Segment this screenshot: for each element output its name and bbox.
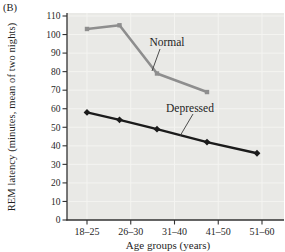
x-tick-label: 41–50 <box>206 226 231 237</box>
y-tick-label: 30 <box>51 160 61 170</box>
y-tick-label: 10 <box>51 197 61 207</box>
normal-data-marker <box>85 27 89 31</box>
y-tick-label: 110 <box>47 11 61 21</box>
y-tick-label: 40 <box>51 141 61 151</box>
series-label-depressed: Depressed <box>166 102 214 114</box>
y-tick-label: 20 <box>51 178 61 188</box>
y-tick-label: 0 <box>56 215 61 225</box>
normal-data-marker <box>205 90 209 94</box>
x-tick-label: 26–30 <box>118 226 143 237</box>
y-tick-label: 80 <box>51 67 61 77</box>
x-axis-title: Age groups (years) <box>126 239 210 251</box>
plot-area: 010203040506070809010011018–2526–3031–40… <box>0 0 285 252</box>
y-tick-label: 100 <box>46 30 61 40</box>
y-tick-label: 90 <box>51 48 61 58</box>
normal-data-marker <box>155 71 159 75</box>
y-tick-label: 70 <box>51 85 61 95</box>
rem-latency-chart: (B) REM latency (minutes, mean of two ni… <box>0 0 285 252</box>
y-tick-label: 60 <box>51 104 61 114</box>
x-tick-label: 51–60 <box>250 226 275 237</box>
series-label-normal: Normal <box>149 36 184 48</box>
normal-data-marker <box>117 23 121 27</box>
x-tick-label: 31–40 <box>162 226 187 237</box>
y-tick-label: 50 <box>51 123 61 133</box>
x-tick-label: 18–25 <box>75 226 100 237</box>
